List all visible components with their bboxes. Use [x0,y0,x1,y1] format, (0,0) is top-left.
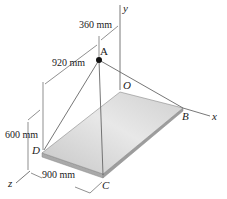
dimension-920mm: 920 mm [52,57,85,68]
z-axis [16,171,30,183]
point-A-marker [96,57,102,63]
point-O-label: O [123,79,131,91]
dimension-600mm: 600 mm [5,129,38,140]
point-A-label: A [100,45,108,57]
point-C-label: C [102,179,110,191]
plate-cable-diagram: y x z A O B C D 360 mm 920 mm 600 mm 900… [0,0,227,199]
x-axis-label: x [211,110,217,122]
dimension-360mm: 360 mm [79,19,112,30]
point-D-label: D [31,144,40,156]
point-B-label: B [182,110,189,122]
dimension-900mm: 900 mm [42,169,75,180]
y-axis-label: y [122,2,128,14]
z-axis-label: z [7,177,13,189]
rectangular-plate [42,92,183,178]
